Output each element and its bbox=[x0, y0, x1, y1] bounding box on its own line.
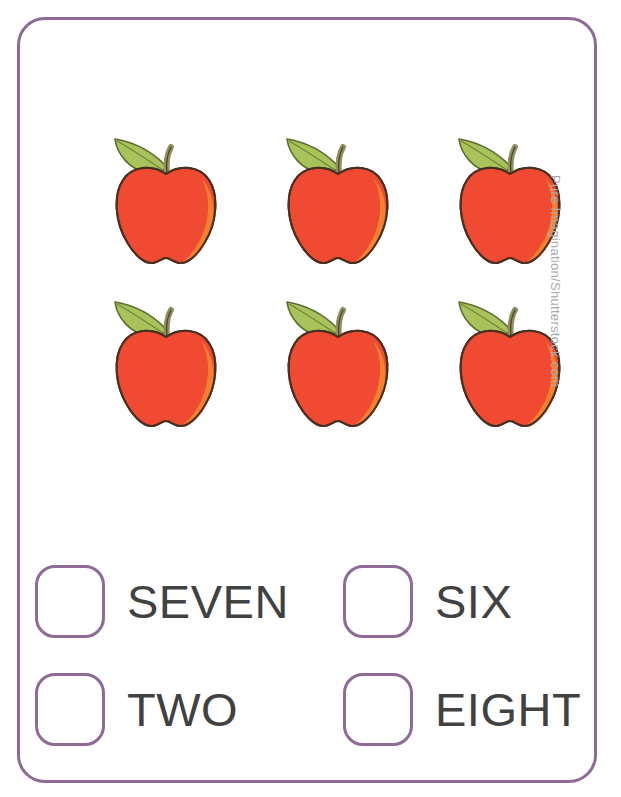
worksheet-card: SEVEN SIX TWO EIGHT Pure Imagination/Shu… bbox=[17, 17, 597, 783]
answer-option-two[interactable]: TWO bbox=[35, 673, 238, 746]
answer-option-seven[interactable]: SEVEN bbox=[35, 565, 289, 638]
answer-label-seven: SEVEN bbox=[127, 578, 289, 625]
apple-icon bbox=[277, 130, 400, 275]
watermark-text: Pure Imagination/Shutterstock.com bbox=[548, 175, 563, 445]
answer-label-two: TWO bbox=[127, 686, 238, 733]
answer-options-area: SEVEN SIX TWO EIGHT bbox=[20, 565, 600, 785]
answer-option-eight[interactable]: EIGHT bbox=[343, 673, 581, 746]
checkbox-six[interactable] bbox=[343, 565, 413, 638]
answer-label-eight: EIGHT bbox=[435, 686, 581, 733]
answer-label-six: SIX bbox=[435, 578, 512, 625]
apple-icon bbox=[277, 293, 400, 438]
answer-option-six[interactable]: SIX bbox=[343, 565, 512, 638]
apple-icon bbox=[105, 130, 228, 275]
apple-icon bbox=[105, 293, 228, 438]
checkbox-eight[interactable] bbox=[343, 673, 413, 746]
checkbox-seven[interactable] bbox=[35, 565, 105, 638]
checkbox-two[interactable] bbox=[35, 673, 105, 746]
apple-grid bbox=[105, 130, 555, 440]
